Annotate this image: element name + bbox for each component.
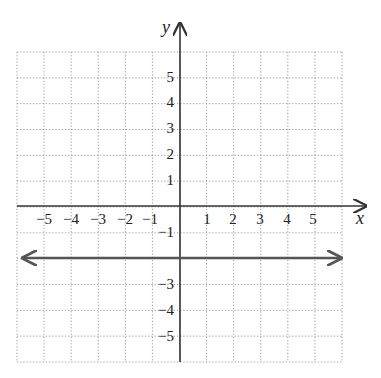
y-tick-label: −4	[158, 302, 174, 318]
y-tick-labels-positive: 5 4 3 2 1	[167, 69, 175, 188]
y-tick-label: 3	[167, 120, 175, 136]
y-tick-labels-negative: −1 −3 −4 −5	[158, 224, 174, 344]
x-tick-label: −5	[36, 211, 52, 227]
y-tick-label: 4	[167, 94, 175, 110]
y-tick-label: −5	[158, 328, 174, 344]
x-axis-label: x	[355, 208, 364, 228]
x-tick-label: −4	[63, 211, 79, 227]
x-tick-labels-negative: −5 −4 −3 −2 −1	[36, 211, 158, 227]
y-tick-label: 2	[167, 146, 175, 162]
x-tick-label: 1	[203, 211, 211, 227]
y-axis-label: y	[160, 17, 170, 37]
x-tick-label: 5	[309, 211, 317, 227]
x-tick-label: 2	[229, 211, 237, 227]
x-tick-label: 3	[256, 211, 264, 227]
coordinate-plane: x y −5 −4 −3 −2 −1 1 2 3 4 5 5 4 3 2 1 −…	[0, 0, 381, 378]
x-tick-label: −1	[142, 211, 158, 227]
x-tick-label: −3	[90, 211, 106, 227]
x-tick-labels-positive: 1 2 3 4 5	[203, 211, 317, 227]
y-tick-label: −3	[158, 276, 174, 292]
y-tick-label: −1	[158, 224, 174, 240]
x-tick-label: 4	[283, 211, 291, 227]
y-tick-label: 1	[167, 172, 175, 188]
x-tick-label: −2	[117, 211, 133, 227]
y-tick-label: 5	[167, 69, 175, 85]
